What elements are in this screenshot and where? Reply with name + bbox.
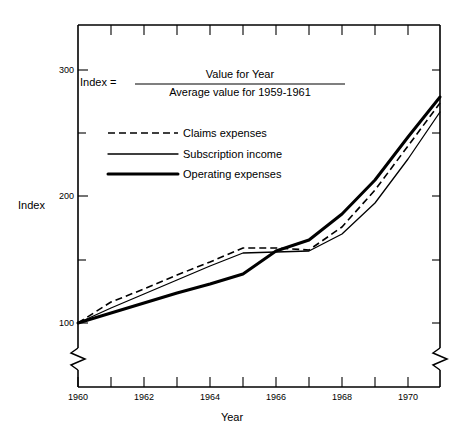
y-tick-label-100: 100 (59, 318, 74, 328)
left-axis-break-icon (71, 348, 85, 370)
x-tick-label-1962: 1962 (134, 392, 154, 402)
formula-numerator: Value for Year (206, 68, 275, 80)
x-tick-label-1970: 1970 (398, 392, 418, 402)
y-tick-label-200: 200 (59, 191, 74, 201)
x-tick-label-1966: 1966 (266, 392, 286, 402)
formula-denominator: Average value for 1959-1961 (169, 86, 311, 98)
legend-label-claims-expenses: Claims expenses (183, 127, 267, 139)
y-axis-title: Index (18, 199, 45, 211)
legend-label-operating-expenses: Operating expenses (183, 168, 282, 180)
x-axis-title: Year (221, 411, 244, 423)
x-tick-label-1968: 1968 (332, 392, 352, 402)
chart-figure: 300 200 100 Index 1960 1962 1964 1966 1 (0, 0, 466, 436)
x-tick-label-1964: 1964 (200, 392, 220, 402)
line-chart: 300 200 100 Index 1960 1962 1964 1966 1 (0, 0, 466, 436)
right-axis-break-icon (433, 348, 447, 370)
x-tick-label-1960: 1960 (68, 392, 88, 402)
series-line-subscription-income (78, 112, 440, 323)
legend-label-subscription-income: Subscription income (183, 148, 282, 160)
y-tick-label-300: 300 (59, 65, 74, 75)
formula-prefix: Index = (80, 76, 116, 88)
